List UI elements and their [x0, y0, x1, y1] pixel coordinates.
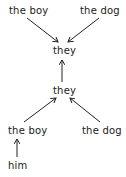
arrow-boy-to-they-bottom: [24, 98, 56, 122]
node-the-boy-top: the boy: [9, 5, 48, 17]
node-they-lower: they: [53, 85, 76, 97]
node-the-dog-top: the dog: [80, 5, 120, 17]
arrow-boy-to-they-top: [27, 18, 58, 42]
node-him: him: [8, 160, 27, 172]
node-the-dog-bottom: the dog: [82, 125, 122, 137]
arrow-dog-to-they-top: [68, 18, 99, 42]
arrow-dog-to-they-bottom: [70, 98, 100, 122]
node-they-upper: they: [53, 45, 76, 57]
node-the-boy-bottom: the boy: [8, 125, 47, 137]
